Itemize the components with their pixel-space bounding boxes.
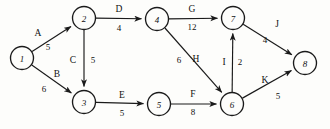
graph-node-label-1: 1 — [20, 54, 25, 64]
graph-edge-d — [96, 18, 142, 19]
edge-name-b: B — [54, 69, 60, 79]
graph-node-label-3: 3 — [81, 98, 87, 108]
edge-name-g: G — [189, 4, 196, 14]
graph-diagram: 12345678 A5B6C5D4E5F8G12H6I2J4K5 — [0, 0, 330, 129]
graph-edge-g — [169, 18, 218, 19]
edge-weight-a: 5 — [46, 42, 51, 52]
graph-edge-e — [96, 102, 144, 103]
edge-weight-c: 5 — [91, 55, 96, 65]
edge-name-c: C — [70, 55, 76, 65]
nodes-layer: 12345678 — [11, 7, 317, 116]
edge-weight-h: 6 — [177, 55, 182, 65]
edge-name-k: K — [262, 75, 269, 85]
edge-name-i: I — [222, 57, 225, 67]
edge-name-d: D — [116, 4, 123, 14]
edge-name-j: J — [275, 19, 279, 29]
edge-weight-e: 5 — [120, 108, 125, 118]
edge-weight-i: 2 — [238, 57, 243, 67]
graph-node-label-5: 5 — [157, 100, 162, 110]
edge-weight-g: 12 — [188, 22, 197, 32]
graph-edge-i — [232, 33, 233, 92]
graph-node-label-8: 8 — [303, 59, 308, 69]
edge-weight-b: 6 — [42, 84, 47, 94]
edge-name-h: H — [193, 54, 200, 64]
edge-weight-k: 5 — [276, 91, 281, 101]
graph-node-label-2: 2 — [82, 14, 87, 24]
graph-canvas-svg: 12345678 A5B6C5D4E5F8G12H6I2J4K5 — [0, 0, 330, 129]
graph-edge-j — [243, 24, 292, 54]
edge-name-a: A — [35, 28, 42, 38]
edge-weight-d: 4 — [117, 23, 122, 33]
graph-node-label-6: 6 — [230, 100, 235, 110]
graph-node-label-7: 7 — [231, 14, 236, 24]
edge-name-f: F — [190, 89, 195, 99]
graph-edge-b — [32, 65, 72, 93]
edge-name-e: E — [119, 90, 125, 100]
edge-weight-f: 8 — [191, 107, 196, 117]
edge-weight-j: 4 — [263, 35, 268, 45]
graph-node-label-4: 4 — [155, 15, 160, 25]
